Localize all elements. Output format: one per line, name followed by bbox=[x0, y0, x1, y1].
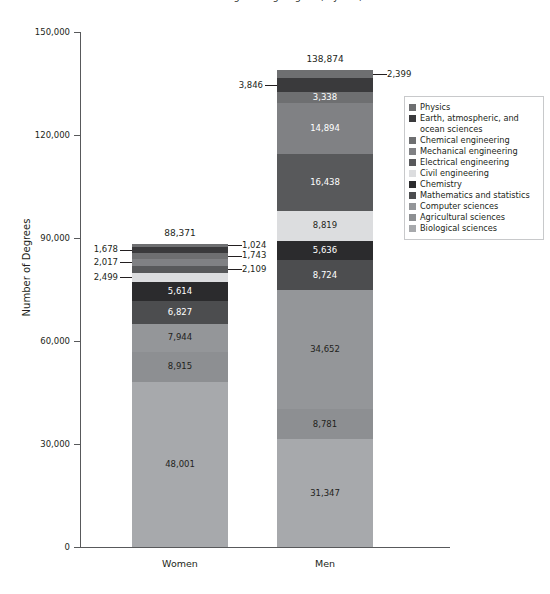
x-axis-label-women: Women bbox=[110, 558, 250, 569]
y-tick-label: 90,000 bbox=[0, 234, 70, 243]
legend-item-label: Earth, atmospheric, and ocean sciences bbox=[420, 113, 539, 135]
segment-value-label: 5,614 bbox=[132, 287, 228, 296]
callout-leader-line bbox=[228, 269, 242, 270]
y-tick-mark bbox=[74, 547, 80, 548]
legend-swatch-icon bbox=[409, 225, 416, 232]
legend-swatch-icon bbox=[409, 148, 416, 155]
legend-swatch-icon bbox=[409, 192, 416, 199]
legend-swatch-icon bbox=[409, 214, 416, 221]
x-axis-label-men: Men bbox=[255, 558, 395, 569]
y-tick-label: 120,000 bbox=[0, 131, 70, 140]
legend-item[interactable]: Mechanical engineering bbox=[409, 146, 539, 157]
legend-item-label: Chemical engineering bbox=[420, 135, 510, 146]
callout-leader-line bbox=[228, 245, 242, 246]
segment-value-label: 16,438 bbox=[277, 178, 373, 187]
callout-leader-line bbox=[228, 256, 242, 257]
segment-value-label: 7,944 bbox=[132, 333, 228, 342]
segment-callout-label: 2,399 bbox=[387, 70, 435, 79]
bar-total-label: 138,874 bbox=[255, 54, 395, 64]
stacked-bar-chart: Science and Engineering Degrees, by Sex,… bbox=[0, 0, 550, 594]
legend-item[interactable]: Computer sciences bbox=[409, 201, 539, 212]
bar-segment[interactable] bbox=[132, 259, 228, 266]
legend-item-label: Physics bbox=[420, 102, 450, 113]
segment-value-label: 8,724 bbox=[277, 271, 373, 280]
callout-leader-line bbox=[120, 262, 132, 263]
legend-item[interactable]: Chemistry bbox=[409, 179, 539, 190]
y-tick-label: 60,000 bbox=[0, 337, 70, 346]
segment-value-label: 3,338 bbox=[277, 93, 373, 102]
legend-item[interactable]: Mathematics and statistics bbox=[409, 190, 539, 201]
legend-swatch-icon bbox=[409, 137, 416, 144]
legend-item-label: Biological sciences bbox=[420, 223, 497, 234]
legend-item[interactable]: Physics bbox=[409, 102, 539, 113]
segment-callout-label: 1,678 bbox=[70, 245, 118, 254]
legend-item-label: Civil engineering bbox=[420, 168, 489, 179]
legend-item[interactable]: Civil engineering bbox=[409, 168, 539, 179]
legend-swatch-icon bbox=[409, 203, 416, 210]
legend-item-label: Mechanical engineering bbox=[420, 146, 518, 157]
legend-swatch-icon bbox=[409, 104, 416, 111]
legend-item[interactable]: Biological sciences bbox=[409, 223, 539, 234]
legend-item-label: Mathematics and statistics bbox=[420, 190, 530, 201]
segment-value-label: 5,636 bbox=[277, 246, 373, 255]
callout-leader-line bbox=[265, 85, 277, 86]
y-tick-label: 0 bbox=[0, 543, 70, 552]
chart-legend: PhysicsEarth, atmospheric, and ocean sci… bbox=[404, 96, 544, 240]
bar-total-label: 88,371 bbox=[110, 228, 250, 238]
segment-callout-label: 2,017 bbox=[70, 258, 118, 267]
y-axis-line bbox=[80, 32, 81, 547]
legend-item-label: Computer sciences bbox=[420, 201, 498, 212]
y-tick-mark bbox=[74, 341, 80, 342]
segment-value-label: 14,894 bbox=[277, 124, 373, 133]
legend-swatch-icon bbox=[409, 159, 416, 166]
chart-title: Science and Engineering Degrees, by Sex,… bbox=[0, 0, 550, 3]
segment-callout-label: 3,846 bbox=[215, 81, 263, 90]
segment-value-label: 8,819 bbox=[277, 221, 373, 230]
segment-value-label: 48,001 bbox=[132, 460, 228, 469]
y-tick-label: 150,000 bbox=[0, 28, 70, 37]
y-tick-mark bbox=[74, 32, 80, 33]
x-axis-line bbox=[80, 547, 450, 548]
bar-segment[interactable] bbox=[132, 266, 228, 273]
callout-leader-line bbox=[373, 74, 387, 75]
y-axis-title: Number of Degrees bbox=[21, 198, 32, 338]
segment-callout-label: 1,743 bbox=[242, 251, 290, 260]
segment-value-label: 31,347 bbox=[277, 489, 373, 498]
segment-callout-label: 2,499 bbox=[70, 273, 118, 282]
legend-item[interactable]: Electrical engineering bbox=[409, 157, 539, 168]
legend-item[interactable]: Earth, atmospheric, and ocean sciences bbox=[409, 113, 539, 135]
bar-segment[interactable] bbox=[132, 273, 228, 282]
segment-value-label: 8,915 bbox=[132, 362, 228, 371]
segment-callout-label: 2,109 bbox=[242, 265, 290, 274]
bar-segment[interactable] bbox=[277, 70, 373, 78]
legend-item-label: Agricultural sciences bbox=[420, 212, 505, 223]
legend-item[interactable]: Chemical engineering bbox=[409, 135, 539, 146]
segment-callout-label: 1,024 bbox=[242, 241, 290, 250]
legend-item[interactable]: Agricultural sciences bbox=[409, 212, 539, 223]
y-tick-mark bbox=[74, 444, 80, 445]
bar-segment[interactable] bbox=[277, 78, 373, 91]
legend-swatch-icon bbox=[409, 170, 416, 177]
y-tick-mark bbox=[74, 135, 80, 136]
callout-leader-line bbox=[120, 277, 132, 278]
legend-swatch-icon bbox=[409, 115, 416, 122]
segment-value-label: 34,652 bbox=[277, 345, 373, 354]
legend-item-label: Chemistry bbox=[420, 179, 462, 190]
callout-leader-line bbox=[120, 250, 132, 251]
legend-swatch-icon bbox=[409, 181, 416, 188]
legend-item-label: Electrical engineering bbox=[420, 157, 509, 168]
y-tick-label: 30,000 bbox=[0, 440, 70, 449]
segment-value-label: 6,827 bbox=[132, 308, 228, 317]
segment-value-label: 8,781 bbox=[277, 420, 373, 429]
y-tick-mark bbox=[74, 238, 80, 239]
